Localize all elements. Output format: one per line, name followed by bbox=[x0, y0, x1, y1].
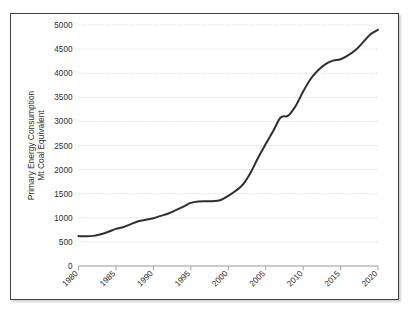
line-chart: 0500100015002000250030003500400045005000… bbox=[0, 0, 415, 318]
y-tick-label: 3500 bbox=[54, 93, 73, 102]
x-tick-label: 2015 bbox=[323, 269, 343, 289]
y-tick-label: 4500 bbox=[54, 45, 73, 54]
x-tick-label: 2000 bbox=[210, 269, 230, 289]
gridlines bbox=[79, 25, 379, 242]
chart-figure: 0500100015002000250030003500400045005000… bbox=[0, 0, 415, 318]
y-axis-title-line: Mt Coal Equivalent bbox=[36, 110, 46, 181]
x-tick-marks bbox=[79, 266, 379, 271]
x-tick-label: 2005 bbox=[248, 269, 268, 289]
x-tick-labels: 198019851990199520002005201020152020 bbox=[61, 269, 380, 289]
x-tick-label: 1995 bbox=[173, 269, 193, 289]
y-tick-label: 2500 bbox=[54, 142, 73, 151]
y-axis-title-line: Primary Energy Consumption bbox=[26, 90, 36, 200]
y-tick-label: 3000 bbox=[54, 117, 73, 126]
y-tick-label: 500 bbox=[59, 238, 73, 247]
x-tick-label: 1985 bbox=[98, 269, 118, 289]
x-tick-label: 1980 bbox=[61, 269, 81, 289]
y-tick-label: 4000 bbox=[54, 69, 73, 78]
y-tick-labels: 0500100015002000250030003500400045005000 bbox=[54, 21, 73, 271]
data-series-primary-energy bbox=[79, 30, 379, 237]
x-tick-label: 2010 bbox=[285, 269, 305, 289]
y-tick-label: 5000 bbox=[54, 21, 73, 30]
x-tick-label: 2020 bbox=[360, 269, 380, 289]
y-tick-label: 1000 bbox=[54, 214, 73, 223]
y-axis-title: Primary Energy ConsumptionMt Coal Equiva… bbox=[26, 90, 46, 200]
y-tick-label: 2000 bbox=[54, 166, 73, 175]
x-tick-label: 1990 bbox=[136, 269, 156, 289]
y-tick-label: 1500 bbox=[54, 190, 73, 199]
series-line bbox=[79, 30, 379, 237]
